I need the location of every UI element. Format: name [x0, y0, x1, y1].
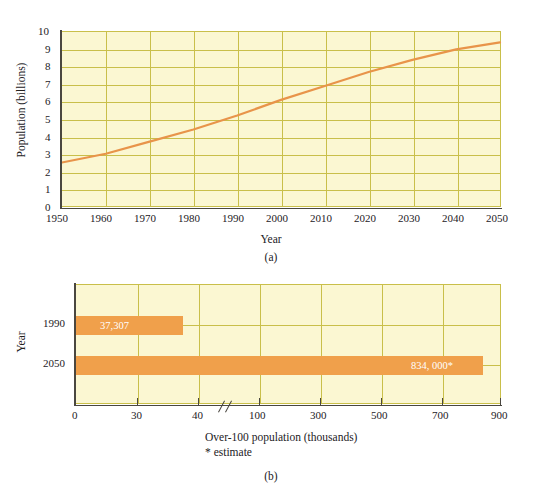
- chart-b-tickmark-100: [259, 398, 260, 405]
- chart-b-estimate-note: * estimate: [205, 446, 252, 458]
- chart-b-xtick-0: 0: [72, 410, 78, 421]
- chart-a-y-axis-title: Population (billions): [15, 40, 27, 180]
- chart-b-gridline-v-40: [199, 285, 200, 403]
- chart-b-gridline-v-30: [138, 285, 139, 403]
- chart-a-xtick-2010: 2010: [310, 213, 332, 224]
- chart-a-ytick-1: 1: [45, 184, 51, 195]
- chart-b-xtick-300: 300: [310, 410, 327, 421]
- chart-a-xtick-2050: 2050: [486, 213, 508, 224]
- chart-b-y-axis-title: Year: [15, 322, 27, 362]
- chart-b-ytick-1990: 1990: [43, 318, 65, 329]
- chart-a-plot-area: [61, 31, 501, 207]
- chart-b-plot-area: 37,307 834, 000*: [75, 284, 501, 404]
- chart-b-gridline-v-700: [443, 285, 444, 403]
- bar-1990: [76, 316, 183, 335]
- chart-a-series-line: [62, 32, 500, 206]
- chart-b-x-axis-title: Over-100 population (thousands): [205, 431, 357, 443]
- chart-a-ytick-2: 2: [45, 167, 51, 178]
- bar-label-2050: 834, 000*: [411, 356, 453, 375]
- chart-b-tickmark-30: [137, 398, 138, 405]
- chart-b-xtick-500: 500: [371, 410, 388, 421]
- chart-a-ytick-9: 9: [45, 44, 51, 55]
- chart-a-ytick-6: 6: [45, 96, 51, 107]
- chart-b-tickmark-0: [75, 398, 76, 405]
- chart-b-tickmark-700: [442, 398, 443, 405]
- chart-a-ytick-5: 5: [45, 114, 51, 125]
- chart-b-y-axis: [74, 283, 76, 405]
- bar-label-1990: 37,307: [100, 316, 129, 335]
- chart-a-ytick-8: 8: [45, 61, 51, 72]
- chart-b-tickmark-500: [381, 398, 382, 405]
- chart-a-ytick-7: 7: [45, 79, 51, 90]
- chart-a-xtick-1980: 1980: [178, 213, 200, 224]
- chart-a-xtick-2030: 2030: [398, 213, 420, 224]
- chart-b-x-axis: [74, 405, 502, 407]
- caption-b: (b): [0, 470, 542, 482]
- chart-b-tickmark-900: [500, 398, 501, 405]
- caption-a: (a): [0, 251, 542, 263]
- chart-b-xtick-100: 100: [249, 410, 266, 421]
- figure-container: 10 9 8 7 6 5 4 3 2 1 0 1950 1960 1970 19…: [0, 0, 542, 494]
- chart-b-gridline-v-300: [321, 285, 322, 403]
- chart-b-xtick-40: 40: [192, 410, 203, 421]
- chart-a-ytick-3: 3: [45, 149, 51, 160]
- chart-b-ytick-2050: 2050: [43, 358, 65, 369]
- chart-b-xtick-700: 700: [432, 410, 449, 421]
- chart-b-tickmark-40: [198, 398, 199, 405]
- chart-b-gridline-v-500: [382, 285, 383, 403]
- chart-b-xtick-900: 900: [491, 410, 508, 421]
- chart-a-x-axis-title: Year: [0, 233, 542, 245]
- chart-a-ytick-4: 4: [45, 132, 51, 143]
- chart-a-y-axis: [60, 30, 62, 209]
- chart-a-xtick-1990: 1990: [222, 213, 244, 224]
- chart-a-x-axis: [60, 208, 502, 210]
- chart-b-xtick-30: 30: [131, 410, 142, 421]
- chart-a-xtick-2040: 2040: [442, 213, 464, 224]
- chart-b-gridline-v-100: [260, 285, 261, 403]
- chart-a-xtick-2020: 2020: [354, 213, 376, 224]
- chart-a-xtick-1970: 1970: [134, 213, 156, 224]
- chart-a-xtick-1950: 1950: [46, 213, 68, 224]
- chart-a-xtick-2000: 2000: [266, 213, 288, 224]
- chart-b-tickmark-300: [320, 398, 321, 405]
- chart-a-ytick-10: 10: [38, 26, 49, 37]
- chart-a-xtick-1960: 1960: [90, 213, 112, 224]
